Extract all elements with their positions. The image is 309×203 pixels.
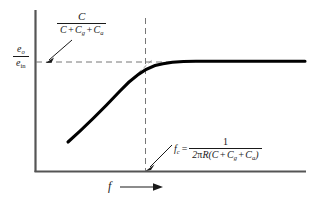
gain-numerator: C [57, 11, 106, 24]
response-curve [68, 61, 305, 142]
x-axis-arrowhead [153, 183, 163, 191]
x-axis-symbol: f [108, 179, 111, 193]
gain-callout-arrow-shaft [49, 40, 72, 60]
gain-fraction: C C + Cg + Ca [57, 11, 106, 36]
y-axis-label: eo ein [13, 44, 29, 70]
fc-denominator: 2πR(C + Cg + Ca) [189, 149, 261, 161]
fc-callout-arrow-shaft [150, 145, 172, 167]
fc-symbol: fc [174, 143, 180, 154]
fc-equals: = [180, 143, 190, 154]
y-axis-fraction: eo ein [13, 44, 29, 70]
fc-fraction: 1 2πR(C + Cg + Ca) [189, 137, 261, 161]
gain-asymptote-label: C C + Cg + Ca [57, 11, 106, 36]
plot-canvas [0, 0, 309, 203]
frequency-response-figure: C C + Cg + Ca eo ein f fc= 1 2πR(C + Cg … [0, 0, 309, 203]
gain-denominator: C + Cg + Ca [57, 24, 106, 36]
fc-callout-arrowhead [146, 165, 155, 172]
y-axis-denominator: ein [13, 57, 29, 69]
gain-callout-arrowhead [46, 58, 55, 64]
x-axis-label: f [108, 180, 111, 192]
fc-numerator: 1 [189, 137, 261, 149]
corner-frequency-label: fc= 1 2πR(C + Cg + Ca) [174, 137, 262, 161]
y-axis-numerator: eo [13, 44, 29, 57]
